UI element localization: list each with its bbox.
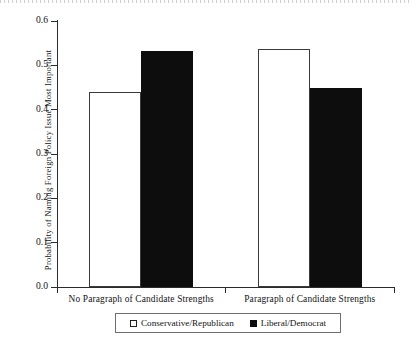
x-axis-tick [394,287,395,293]
y-axis-tick-label: 0.0 [36,280,48,291]
y-axis-tick-label: 0.4 [36,103,48,114]
y-axis-tick-label: 0.6 [36,14,48,25]
scan-artifact-band [0,0,410,3]
legend-swatch-filled-icon [250,320,257,327]
x-axis-category-label: No Paragraph of Candidate Strengths [69,294,214,304]
y-axis-tick-label: 0.2 [36,191,48,202]
y-axis-tick-label: 0.5 [36,58,48,69]
legend-label: Conservative/Republican [141,318,234,328]
bar [310,88,362,288]
x-axis-category-label: Paragraph of Candidate Strengths [244,294,375,304]
bar [141,51,193,287]
legend-item-liberal-democrat: Liberal/Democrat [250,318,326,328]
legend-item-conservative-republican: Conservative/Republican [130,318,234,328]
legend-label: Liberal/Democrat [261,318,326,328]
legend-swatch-open-icon [130,320,137,327]
chart-legend: Conservative/Republican Liberal/Democrat [115,313,341,333]
bar [89,92,141,287]
y-axis-tick-label: 0.3 [36,147,48,158]
x-axis-tick [225,287,226,293]
x-axis-tick [57,287,58,293]
bar-chart: Probability of Naming Foreign Policy Iss… [0,0,410,341]
plot-area [57,21,394,287]
y-axis-tick-label: 0.1 [36,236,48,247]
bar [258,49,310,287]
